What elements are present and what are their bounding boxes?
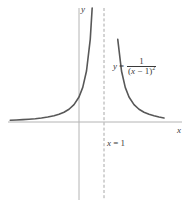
asymptote-label-value: = 1: [111, 138, 125, 148]
y-axis-label: y: [81, 5, 85, 14]
denominator-rest: − 1): [135, 66, 152, 76]
curve-right-branch: [118, 39, 164, 118]
figure-canvas: y x x = 1 y = 1 (x − 1)2: [0, 0, 189, 209]
curve-left-branch: [10, 8, 92, 120]
equation-lhs: y: [113, 62, 117, 71]
x-axis-label: x: [177, 126, 181, 135]
equation-fraction: 1 (x − 1)2: [127, 57, 156, 76]
equation-label: y = 1 (x − 1)2: [113, 57, 156, 76]
equation-numerator: 1: [136, 57, 147, 66]
asymptote-label: x = 1: [107, 139, 125, 148]
equation-denominator: (x − 1)2: [127, 67, 156, 76]
denominator-exponent: 2: [152, 65, 155, 71]
axes-group: [8, 8, 182, 200]
function-plot: [0, 0, 189, 209]
equation-equals-sign: =: [119, 62, 124, 71]
